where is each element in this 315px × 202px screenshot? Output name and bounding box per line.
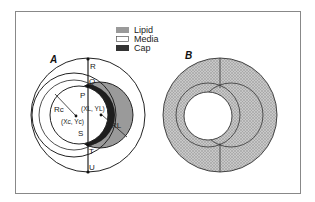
center-c [75, 115, 78, 118]
panel-b-label: B [185, 50, 192, 61]
lumen-b [184, 92, 232, 140]
label-q: Q [89, 77, 95, 86]
point-r [86, 57, 89, 60]
label-xc-yc: (Xc, Yc) [61, 118, 84, 126]
label-t: T [89, 147, 94, 156]
label-u: U [89, 163, 95, 172]
label-p: P [80, 91, 85, 100]
panel-a-label: A [49, 54, 57, 65]
legend-swatch-media [117, 37, 129, 42]
label-rc: Rc [54, 105, 64, 114]
diagram-figure: A R Q P S T U Rc [0, 0, 315, 202]
legend-swatch-cap [116, 45, 129, 51]
label-xl-yl: (XL, YL) [81, 105, 105, 113]
legend-swatch-lipid [116, 27, 129, 33]
center-l [100, 114, 103, 117]
label-rl: RL [111, 121, 122, 130]
label-r: R [90, 62, 96, 71]
legend-label-cap: Cap [134, 43, 151, 53]
label-s: S [78, 129, 83, 138]
